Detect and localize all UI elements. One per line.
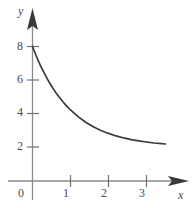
y-tick-label-4: 4 (17, 106, 23, 118)
y-tick-label-2: 2 (17, 140, 23, 152)
x-tick-label-3: 3 (139, 187, 145, 199)
x-axis-label: x (178, 189, 183, 201)
y-tick-label-6: 6 (17, 73, 23, 85)
y-axis-label: y (18, 5, 23, 17)
plot-canvas (0, 0, 192, 208)
x-tick-label-0: 0 (18, 187, 24, 199)
decay-curve (33, 47, 166, 144)
exponential-decay-figure: 8 6 4 2 0 1 2 3 y x (0, 0, 192, 208)
x-tick-label-1: 1 (63, 187, 69, 199)
x-tick-label-2: 2 (101, 187, 107, 199)
y-tick-label-8: 8 (17, 40, 23, 52)
